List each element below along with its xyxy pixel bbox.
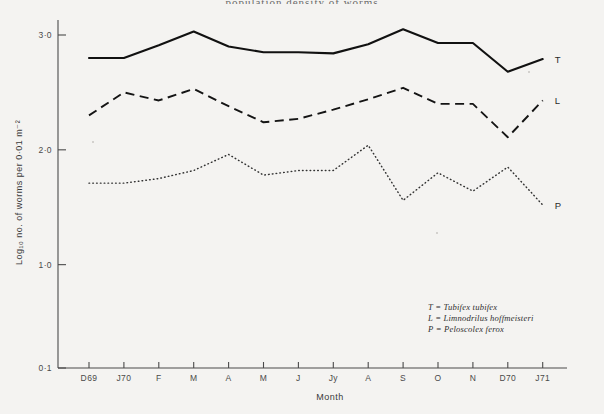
scan-speck <box>92 141 94 143</box>
y-axis-tick-label: 1·0 <box>39 260 53 270</box>
x-axis-tick-label: A <box>226 373 232 383</box>
scan-speck <box>528 71 530 73</box>
y-axis-tick-label: 0·1 <box>39 363 53 373</box>
x-axis-tick-label: A <box>365 373 371 383</box>
chart-legend: T = Tubifex tubifex L = Limnodrilus hoff… <box>427 302 534 334</box>
x-axis-tick-label: M <box>190 373 197 383</box>
x-axis-tick-label: D70 <box>499 373 516 383</box>
x-axis-title: Month <box>316 392 344 402</box>
x-axis-tick-label: D69 <box>81 373 98 383</box>
legend-line-limnodrilus: L = Limnodrilus hoffmeisteri <box>427 313 534 323</box>
x-axis-ticks: D69J70FMAMJJyASOND70J71 <box>81 362 551 383</box>
x-axis-tick-label: F <box>156 373 162 383</box>
x-axis-tick-label: M <box>260 373 267 383</box>
x-axis-tick-label: S <box>400 373 406 383</box>
series-line-peloscolex-ferox <box>89 145 543 205</box>
series-end-label-t: T <box>555 54 561 65</box>
chart-series-group <box>89 29 543 205</box>
series-line-limnodrilus-hoffmeisteri <box>89 88 543 137</box>
y-axis-tick-label: 3·0 <box>39 30 53 40</box>
x-axis-tick-label: N <box>470 373 477 383</box>
series-end-labels: T L P <box>555 54 562 211</box>
x-axis-tick-label: J <box>296 373 301 383</box>
y-axis-tick-label: 2·0 <box>39 145 53 155</box>
x-axis-tick-label: J70 <box>116 373 131 383</box>
y-axis-title: Log₁₀ no. of worms per 0·01 m⁻² <box>14 120 24 265</box>
legend-line-tubifex: T = Tubifex tubifex <box>428 302 497 312</box>
legend-line-peloscolex: P = Peloscolex ferox <box>427 324 504 334</box>
x-axis-tick-label: Jy <box>329 373 339 383</box>
series-end-label-p: P <box>555 200 562 211</box>
series-line-tubifex-tubifex <box>89 29 543 71</box>
x-axis-tick-label: O <box>434 373 441 383</box>
y-axis-ticks: 0·11·02·03·0 <box>39 30 67 373</box>
x-axis-tick-label: J71 <box>535 373 550 383</box>
scan-speck <box>436 232 438 234</box>
worm-density-line-chart: 0·11·02·03·0 D69J70FMAMJJyASOND70J71 Log… <box>0 0 604 414</box>
series-end-label-l: L <box>555 95 561 106</box>
